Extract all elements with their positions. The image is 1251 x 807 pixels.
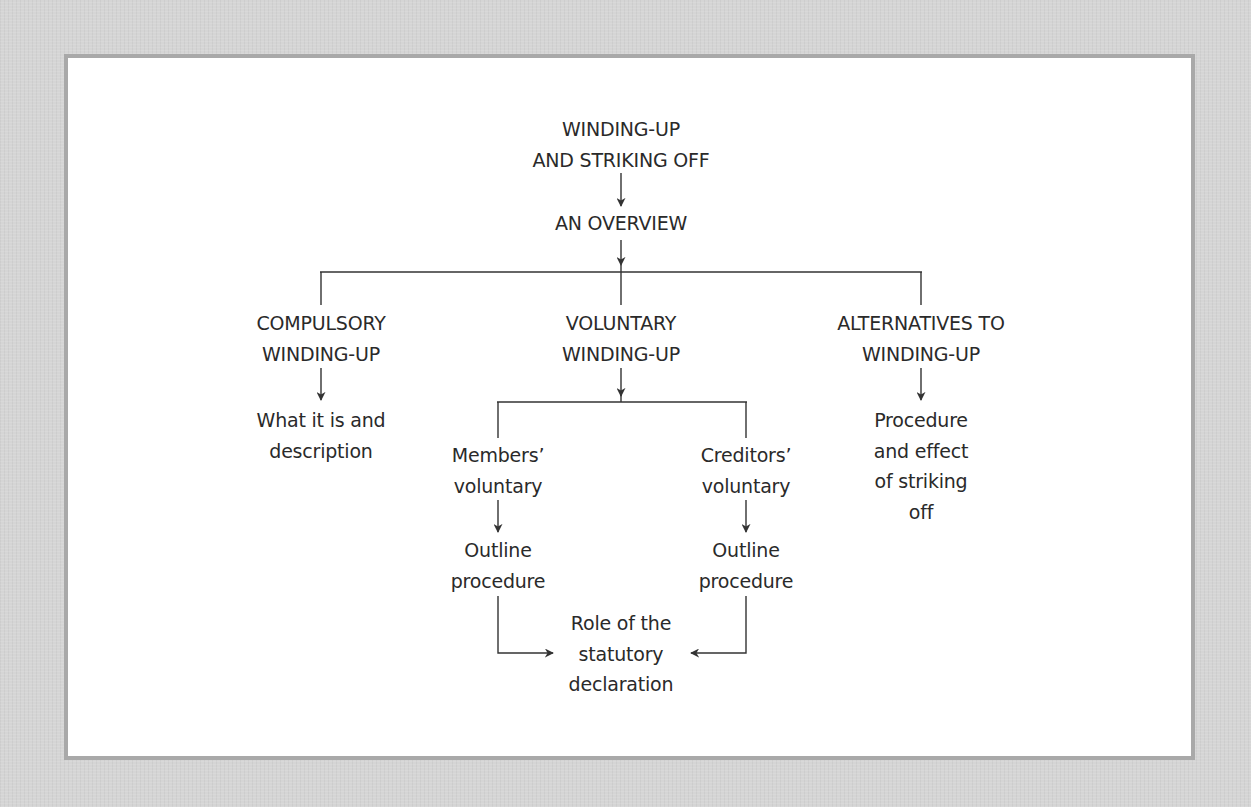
alternatives-detail-line-3: of striking [874, 466, 968, 497]
compulsory-detail-line-2: description [257, 436, 386, 467]
node-alternatives-to-winding-up: ALTERNATIVES TO WINDING-UP [837, 308, 1004, 369]
declaration-line-2: statutory [569, 639, 674, 670]
declaration-line-1: Role of the [569, 608, 674, 639]
alternatives-detail-line-1: Procedure [874, 405, 968, 436]
members-detail-line-1: Outline [451, 535, 546, 566]
members-detail-line-2: procedure [451, 566, 546, 597]
creditors-detail-line-2: procedure [699, 566, 794, 597]
arrow-creditors-to-declaration [691, 596, 746, 653]
voluntary-heading-line-1: VOLUNTARY [562, 308, 680, 339]
creditors-label-line-2: voluntary [701, 471, 792, 502]
alternatives-detail-line-4: off [874, 497, 968, 528]
alternatives-heading-line-1: ALTERNATIVES TO [837, 308, 1004, 339]
creditors-detail-line-1: Outline [699, 535, 794, 566]
voluntary-heading-line-2: WINDING-UP [562, 339, 680, 370]
compulsory-heading-line-2: WINDING-UP [256, 339, 385, 370]
overview-label: AN OVERVIEW [555, 208, 687, 239]
members-label-line-1: Members’ [452, 440, 545, 471]
node-members-outline: Outline procedure [451, 535, 546, 596]
compulsory-detail-line-1: What it is and [257, 405, 386, 436]
node-title: WINDING-UP AND STRIKING OFF [532, 114, 709, 175]
members-label-line-2: voluntary [452, 471, 545, 502]
node-creditors-outline: Outline procedure [699, 535, 794, 596]
node-members-voluntary: Members’ voluntary [452, 440, 545, 501]
node-compulsory-winding-up: COMPULSORY WINDING-UP [256, 308, 385, 369]
node-overview: AN OVERVIEW [555, 208, 687, 239]
declaration-line-3: declaration [569, 669, 674, 700]
title-line-2: AND STRIKING OFF [532, 145, 709, 176]
compulsory-heading-line-1: COMPULSORY [256, 308, 385, 339]
alternatives-detail-line-2: and effect [874, 436, 968, 467]
node-striking-off-procedure: Procedure and effect of striking off [874, 405, 968, 527]
flowchart: WINDING-UP AND STRIKING OFF AN OVERVIEW … [0, 0, 1251, 807]
node-voluntary-winding-up: VOLUNTARY WINDING-UP [562, 308, 680, 369]
node-compulsory-detail: What it is and description [257, 405, 386, 466]
arrow-members-to-declaration [498, 596, 553, 653]
title-line-1: WINDING-UP [532, 114, 709, 145]
alternatives-heading-line-2: WINDING-UP [837, 339, 1004, 370]
node-creditors-voluntary: Creditors’ voluntary [701, 440, 792, 501]
node-statutory-declaration: Role of the statutory declaration [569, 608, 674, 700]
creditors-label-line-1: Creditors’ [701, 440, 792, 471]
